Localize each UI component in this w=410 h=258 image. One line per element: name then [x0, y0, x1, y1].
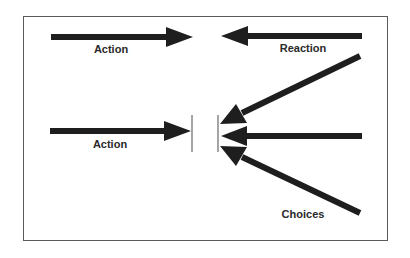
label-reaction: Reaction [280, 43, 326, 54]
choice-arrow-middle [221, 126, 362, 146]
choice-arrow-upper [220, 56, 360, 124]
diagram-canvas [0, 0, 410, 258]
label-choices: Choices [282, 209, 325, 220]
label-action-bottom: Action [93, 139, 127, 150]
choice-arrow-lower [220, 146, 360, 213]
label-action-top: Action [94, 44, 128, 55]
